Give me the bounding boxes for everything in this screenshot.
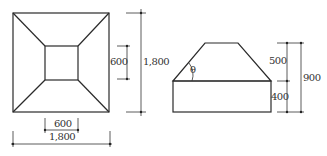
footing-drawing: 600 1,800 600 1,800 θ 500 400 900 bbox=[0, 0, 327, 156]
hip-line-bl bbox=[13, 80, 45, 112]
hip-line-tr bbox=[78, 13, 109, 46]
inner-square bbox=[45, 46, 78, 80]
label-base-height: 400 bbox=[271, 91, 289, 102]
tapered-top bbox=[173, 43, 271, 81]
label-angle: θ bbox=[190, 64, 196, 75]
label-total-height: 900 bbox=[303, 72, 321, 83]
label-inner-width: 600 bbox=[54, 118, 72, 129]
hip-line-tl bbox=[13, 13, 45, 46]
base-block bbox=[173, 81, 271, 112]
label-outer-height: 1,800 bbox=[143, 56, 169, 67]
label-outer-width: 1,800 bbox=[49, 131, 75, 142]
hip-line-br bbox=[78, 80, 109, 112]
elevation-view: θ 500 400 900 bbox=[173, 42, 321, 113]
label-inner-height: 600 bbox=[110, 56, 128, 67]
label-top-height: 500 bbox=[269, 55, 287, 66]
dim-elevation bbox=[277, 42, 304, 113]
plan-view: 600 1,800 600 1,800 bbox=[11, 9, 169, 147]
